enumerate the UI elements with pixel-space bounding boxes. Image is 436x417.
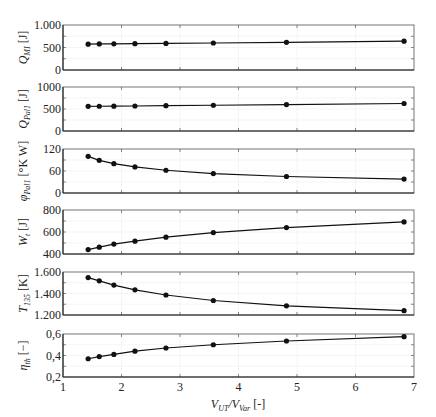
data-point xyxy=(284,338,289,343)
data-point xyxy=(163,235,168,240)
data-point xyxy=(86,154,91,159)
y-tick-label: 0,2 xyxy=(46,370,61,384)
y-tick-label: 1.400 xyxy=(34,287,61,301)
data-point xyxy=(132,41,137,46)
data-point xyxy=(401,39,406,44)
y-tick-label: 800 xyxy=(43,203,61,217)
y-tick-label: 600 xyxy=(43,225,61,239)
y-axis-label: Wt [J] xyxy=(16,218,32,246)
y-tick-label: 1000 xyxy=(37,80,61,94)
data-point xyxy=(284,225,289,230)
data-point xyxy=(132,287,137,292)
data-point xyxy=(401,176,406,181)
panel-W_t: 400600800Wt [J] xyxy=(16,203,414,261)
x-tick-label: 1 xyxy=(60,380,66,394)
panel-Q_Pal1: 05001000QPal1 [J] xyxy=(16,80,414,138)
data-point xyxy=(211,103,216,108)
y-tick-label: 500 xyxy=(43,41,61,55)
data-point xyxy=(211,298,216,303)
y-tick-label: 0,6 xyxy=(46,327,61,341)
y-tick-label: 120 xyxy=(43,142,61,156)
data-point xyxy=(111,161,116,166)
y-axis-label: T135 [K] xyxy=(16,274,32,312)
data-point xyxy=(163,292,168,297)
data-point xyxy=(284,102,289,107)
data-point xyxy=(111,242,116,247)
data-point xyxy=(86,275,91,280)
data-point xyxy=(163,345,168,350)
data-point xyxy=(97,158,102,163)
panel-phi_Pal1: 060120φPal1 [°K W] xyxy=(16,141,414,201)
y-tick-label: 60 xyxy=(49,164,61,178)
data-point xyxy=(97,354,102,359)
x-tick-label: 6 xyxy=(353,380,359,394)
data-point xyxy=(86,247,91,252)
y-axis-label: ηth [−] xyxy=(16,341,32,371)
y-axis-label: QMI [J] xyxy=(16,31,32,65)
panel-Q_MI: 05001.000QMI [J] xyxy=(16,18,414,77)
data-point xyxy=(163,168,168,173)
x-tick-label: 3 xyxy=(177,380,183,394)
data-point xyxy=(401,308,406,313)
x-tick-label: 7 xyxy=(411,380,417,394)
data-point xyxy=(86,104,91,109)
data-point xyxy=(163,41,168,46)
data-point xyxy=(211,230,216,235)
data-point xyxy=(211,171,216,176)
data-point xyxy=(111,352,116,357)
x-tick-label: 4 xyxy=(236,380,242,394)
panel-T_135: 1.2001.4001.600T135 [K] xyxy=(16,265,414,322)
data-point xyxy=(97,41,102,46)
x-tick-label: 2 xyxy=(119,380,125,394)
data-point xyxy=(86,356,91,361)
data-point xyxy=(111,104,116,109)
data-point xyxy=(111,41,116,46)
data-point xyxy=(401,334,406,339)
x-tick-label: 5 xyxy=(294,380,300,394)
data-point xyxy=(132,349,137,354)
y-tick-label: 1.200 xyxy=(34,308,61,322)
x-axis-label: VUT/VVar [-] xyxy=(211,397,265,413)
y-tick-label: 500 xyxy=(43,102,61,116)
data-point xyxy=(97,245,102,250)
data-point xyxy=(132,103,137,108)
data-point xyxy=(401,219,406,224)
data-point xyxy=(97,104,102,109)
stacked-line-chart: 05001.000QMI [J]05001000QPal1 [J]060120φ… xyxy=(0,0,436,417)
data-point xyxy=(163,103,168,108)
y-tick-label: 0 xyxy=(55,124,61,138)
panel-eta_th: 0,20,40,6ηth [−] xyxy=(16,327,414,384)
data-point xyxy=(284,303,289,308)
data-point xyxy=(86,42,91,47)
data-point xyxy=(97,278,102,283)
y-tick-label: 0,4 xyxy=(46,349,61,363)
y-tick-label: 1.000 xyxy=(34,18,61,32)
data-point xyxy=(211,40,216,45)
data-point xyxy=(401,101,406,106)
y-tick-label: 1.600 xyxy=(34,265,61,279)
data-point xyxy=(284,174,289,179)
data-point xyxy=(132,239,137,244)
y-tick-label: 400 xyxy=(43,247,61,261)
y-tick-label: 0 xyxy=(55,63,61,77)
y-tick-label: 0 xyxy=(55,186,61,200)
y-axis-label: QPal1 [J] xyxy=(16,89,32,128)
data-point xyxy=(132,164,137,169)
data-point xyxy=(284,40,289,45)
data-point xyxy=(111,283,116,288)
data-point xyxy=(211,342,216,347)
series-line xyxy=(88,222,404,250)
y-axis-label: φPal1 [°K W] xyxy=(16,141,32,201)
